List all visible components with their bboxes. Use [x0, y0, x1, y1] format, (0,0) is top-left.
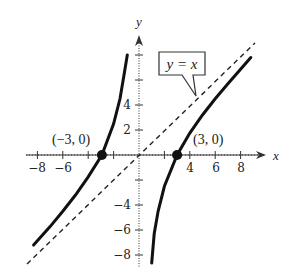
x-tick-label: 4	[186, 161, 194, 175]
callout-label: y = x	[165, 56, 198, 72]
x-intercept-left-point	[97, 150, 107, 160]
x-intercept-right-point	[172, 150, 182, 160]
y-tick-label: 4	[123, 98, 131, 112]
x-intercept-right-label: (3, 0)	[193, 132, 224, 148]
x-axis: x −8 −6 4 6 8	[26, 148, 279, 175]
curve-left-branch	[34, 55, 128, 245]
y-tick-label: 2	[123, 123, 131, 137]
y-axis-label: y	[134, 14, 142, 29]
x-intercept-left-label: (−3, 0)	[52, 132, 91, 148]
x-tick-label: −6	[54, 161, 72, 175]
y-axis: y 4 2 −4 −6 −8	[113, 14, 143, 268]
curve-right-branch	[152, 58, 251, 264]
asymptote-callout: y = x	[159, 52, 205, 96]
x-tick-label: 8	[237, 161, 245, 175]
x-tick-label: −8	[28, 161, 46, 175]
y-tick-label: −8	[113, 248, 131, 262]
function-graph: x −8 −6 4 6 8 y 4 2 −4 −6 −8 (−3,	[0, 0, 296, 279]
y-axis-arrow-icon	[135, 35, 143, 46]
y-tick-label: −6	[113, 223, 131, 237]
x-tick-label: 6	[212, 161, 220, 175]
slant-asymptote-line	[27, 43, 255, 264]
x-axis-label: x	[272, 148, 279, 163]
y-tick-label: −4	[113, 198, 131, 212]
